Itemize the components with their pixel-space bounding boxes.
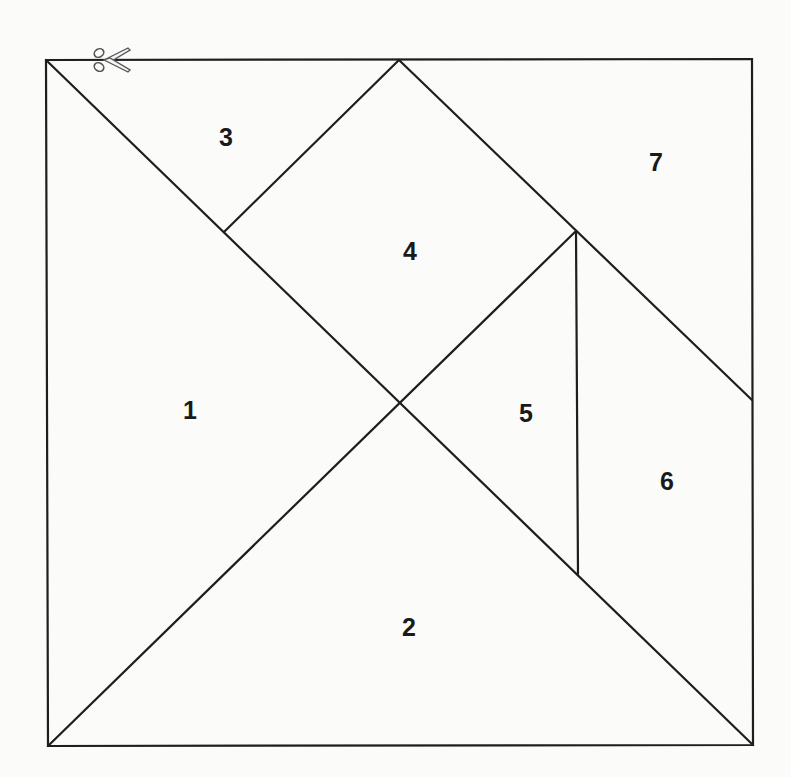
piece-label-6: 6 (660, 467, 674, 495)
piece-label-1: 1 (183, 396, 197, 424)
piece-label-2: 2 (402, 613, 416, 641)
piece-label-4: 4 (403, 237, 417, 265)
tangram-diagram: 1 2 3 4 5 6 7 (0, 0, 791, 777)
piece-label-3: 3 (219, 123, 233, 151)
piece-label-7: 7 (649, 148, 663, 176)
piece-label-5: 5 (519, 399, 533, 427)
